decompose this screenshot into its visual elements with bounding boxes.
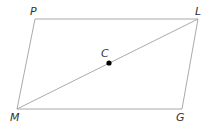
parallelogram-diagram: P L G M C xyxy=(0,0,213,132)
label-M: M xyxy=(10,111,20,124)
label-L: L xyxy=(195,5,201,18)
label-P: P xyxy=(30,5,37,18)
point-C xyxy=(106,60,111,65)
label-C: C xyxy=(101,47,109,60)
label-G: G xyxy=(176,111,185,124)
